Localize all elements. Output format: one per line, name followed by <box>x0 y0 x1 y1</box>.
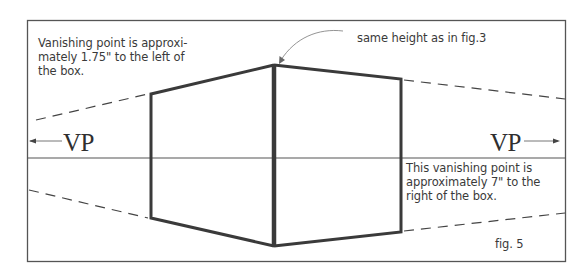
left-top-guide <box>36 94 148 120</box>
height-note: same height as in fig.3 <box>357 31 486 45</box>
box-right-face <box>274 65 401 246</box>
curved-arrow-icon <box>281 30 343 60</box>
perspective-diagram: Vanishing point is approxi- mately 1.75"… <box>0 0 588 278</box>
left-vp-label: VP <box>63 130 94 155</box>
right-bottom-guide <box>404 213 565 231</box>
box-left-face <box>151 65 274 246</box>
box <box>151 64 401 247</box>
left-arrowhead-icon <box>29 139 36 144</box>
left-vanishing-note: Vanishing point is approxi- mately 1.75"… <box>38 36 187 78</box>
right-vp-label: VP <box>490 130 521 155</box>
right-vanishing-note: This vanishing point is approximately 7"… <box>406 161 540 203</box>
arrowhead-icon <box>279 56 285 64</box>
left-bottom-guide <box>29 190 148 218</box>
figure-caption: fig. 5 <box>495 237 524 251</box>
right-arrowhead-icon <box>553 139 560 144</box>
right-top-guide <box>404 80 565 99</box>
